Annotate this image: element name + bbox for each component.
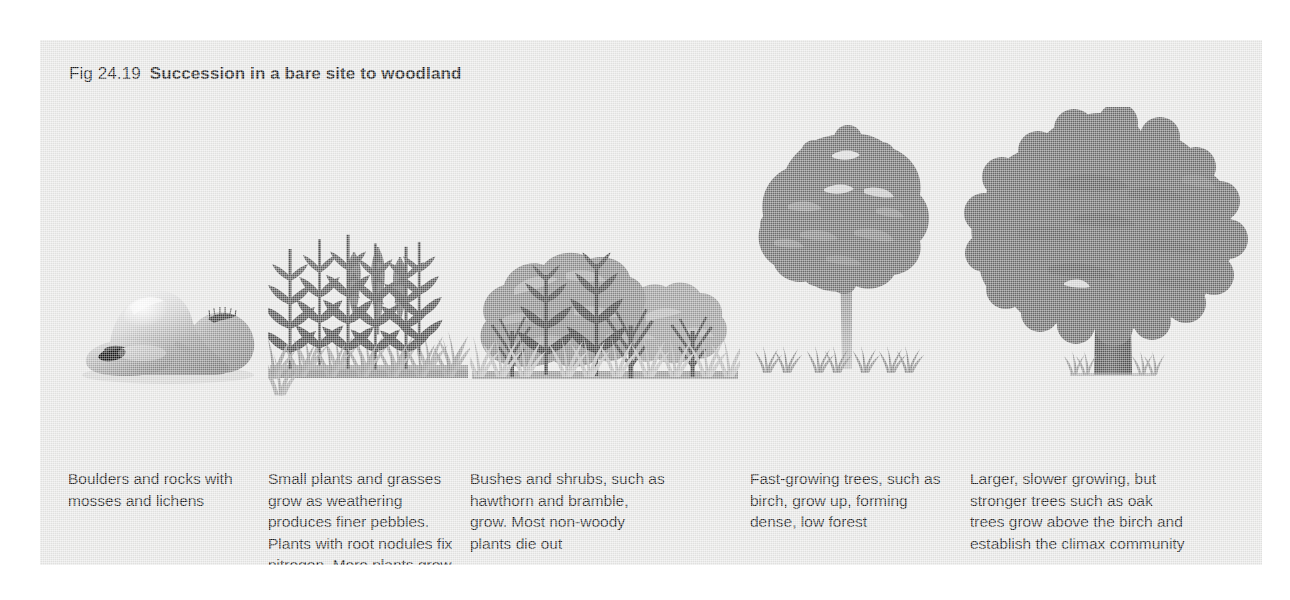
stage-fast-growing-trees: Fast-growing trees, such as birch, grow … [740, 100, 962, 565]
figure-panel: Fig 24.19Succession in a bare site to wo… [40, 40, 1262, 565]
illustration-shrubs [470, 107, 740, 407]
stage-caption: Larger, slower growing, but stronger tre… [970, 468, 1185, 554]
illustration-small-plants [268, 107, 470, 407]
stage-caption: Fast-growing trees, such as birch, grow … [750, 468, 950, 533]
figure-title: Fig 24.19Succession in a bare site to wo… [69, 64, 461, 84]
stage-caption: Boulders and rocks with mosses and liche… [68, 468, 258, 511]
illustration-boulders [68, 107, 268, 407]
illustration-birch-tree [740, 107, 962, 407]
stage-climax-woodland: Larger, slower growing, but stronger tre… [962, 100, 1262, 565]
stage-bushes-and-shrubs: Bushes and shrubs, such as hawthorn and … [470, 100, 740, 565]
figure-number: Fig 24.19 [69, 64, 141, 83]
stage-caption: Small plants and grasses grow as weather… [268, 468, 468, 565]
stage-boulders-and-rocks: Boulders and rocks with mosses and liche… [68, 100, 268, 565]
illustration-oak-tree [962, 107, 1262, 407]
stage-small-plants-and-grasses: Small plants and grasses grow as weather… [268, 100, 470, 565]
figure-title-text: Succession in a bare site to woodland [150, 64, 462, 83]
stage-caption: Bushes and shrubs, such as hawthorn and … [470, 468, 665, 554]
